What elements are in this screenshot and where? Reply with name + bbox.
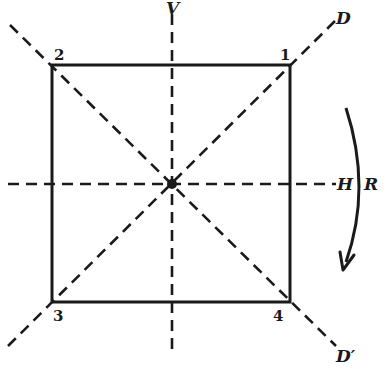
vertex-label-1: 1 xyxy=(280,46,290,64)
vertex-label-4: 4 xyxy=(273,307,283,325)
square-symmetry-diagram: 1 2 3 4 V H D D′ R xyxy=(0,0,385,372)
rotation-label-r: R xyxy=(363,174,378,194)
center-dot xyxy=(167,179,177,189)
axis-label-v: V xyxy=(166,0,181,18)
vertex-label-3: 3 xyxy=(53,307,63,325)
vertex-label-2: 2 xyxy=(54,46,64,64)
axis-label-h: H xyxy=(336,174,354,194)
axis-label-d-prime: D′ xyxy=(335,346,356,366)
axis-label-d: D xyxy=(335,8,351,28)
